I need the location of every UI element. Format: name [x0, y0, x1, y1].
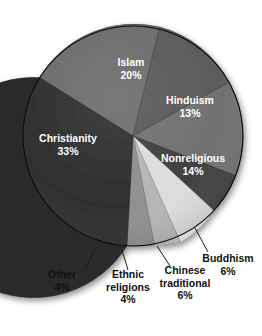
label-hinduism-pct: 13%: [179, 107, 201, 119]
outer-label-other-line1: Other: [48, 268, 76, 280]
label-christianity-pct: 33%: [57, 145, 79, 157]
outer-label-other-pct: 4%: [34, 281, 90, 294]
outer-label-chinese-line2: traditional: [160, 277, 211, 289]
leader-line-chinese-traditional: [157, 246, 170, 266]
outer-label-ethnic-line1: Ethnic: [112, 268, 144, 280]
label-hinduism-name: Hinduism: [166, 94, 214, 106]
label-nonreligious-pct: 14%: [182, 165, 204, 177]
label-christianity-name: Christianity: [39, 132, 97, 144]
outer-label-ethnic-line2: religions: [106, 281, 150, 293]
label-nonreligious-name: Nonreligious: [161, 152, 225, 164]
leader-line-buddhism: [195, 228, 208, 252]
pie-chart-figure: Islam 20% Hinduism 13% Nonreligious 14% …: [0, 0, 262, 336]
label-islam-name: Islam: [118, 56, 145, 68]
outer-label-buddhism-pct: 6%: [196, 265, 260, 278]
outer-label-chinese-pct: 6%: [146, 289, 224, 302]
outer-label-other: Other 4%: [34, 268, 90, 293]
outer-label-buddhism: Buddhism 6%: [196, 252, 260, 277]
label-islam-pct: 20%: [120, 69, 142, 81]
leader-line-ethnic-religions: [122, 250, 128, 270]
outer-label-buddhism-line1: Buddhism: [202, 252, 253, 264]
